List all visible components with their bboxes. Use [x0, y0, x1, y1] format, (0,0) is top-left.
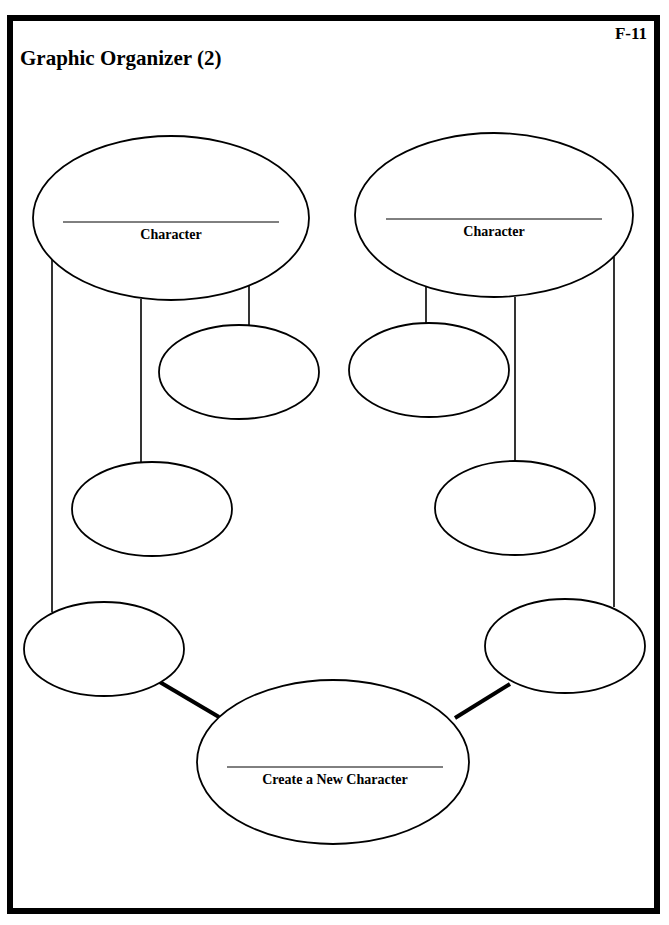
connector-bottom-left	[158, 681, 219, 717]
oval-character-right	[355, 133, 633, 297]
oval-trait-right-mid	[435, 461, 595, 555]
oval-new-character	[197, 680, 469, 844]
oval-trait-right-bottom	[485, 599, 645, 693]
label-character-right: Character	[463, 224, 524, 240]
oval-trait-left-bottom	[24, 602, 184, 696]
oval-trait-left-mid	[72, 462, 232, 556]
label-new-character: Create a New Character	[262, 772, 408, 788]
oval-character-left	[33, 136, 309, 300]
oval-trait-right-top	[349, 323, 509, 417]
connector-bottom-right	[455, 684, 510, 718]
oval-trait-left-top	[159, 325, 319, 419]
label-character-left: Character	[140, 227, 201, 243]
